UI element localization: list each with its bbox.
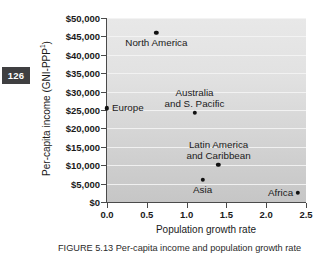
data-point-label-line: Europe	[112, 102, 144, 114]
data-point-label-line: Africa	[268, 187, 293, 199]
data-point-label: Europe	[112, 102, 144, 114]
x-axis-tick-label: 2.0	[249, 209, 283, 220]
data-point-label-line: Asia	[193, 184, 212, 196]
x-axis-tick-label: 1.0	[170, 209, 204, 220]
x-axis-tick-label: 0.0	[90, 209, 124, 220]
data-point-label: Australiaand S. Pacific	[165, 87, 225, 110]
data-point-label-line: Latin America	[186, 139, 250, 151]
data-point-label-line: North America	[125, 37, 187, 49]
x-axis-tick	[107, 203, 108, 208]
x-axis-tick	[147, 203, 148, 208]
x-axis-tick	[266, 203, 267, 208]
x-axis-tick	[187, 203, 188, 208]
data-point-label-line: and S. Pacific	[165, 98, 225, 110]
x-axis-tick-label: 0.5	[130, 209, 164, 220]
figure-caption: FIGURE 5.13 Per-capita income and popula…	[58, 243, 320, 253]
x-axis-tick-label: 1.5	[209, 209, 243, 220]
data-point-label-line: and Caribbean	[186, 150, 250, 162]
x-axis-tick-label: 2.5	[289, 209, 323, 220]
figure-scatter-plot: 126 Per-capita income (GNI-PPP1) $0$5,00…	[0, 0, 323, 253]
x-axis-tick	[306, 203, 307, 208]
x-axis-tick	[226, 203, 227, 208]
data-point-label-line: Australia	[165, 87, 225, 99]
data-point-label: Africa	[268, 187, 293, 199]
data-point-label: Asia	[193, 184, 212, 196]
x-axis-title: Population growth rate	[106, 224, 306, 235]
data-point-label: Latin Americaand Caribbean	[186, 139, 250, 162]
data-point-label: North America	[125, 37, 187, 49]
